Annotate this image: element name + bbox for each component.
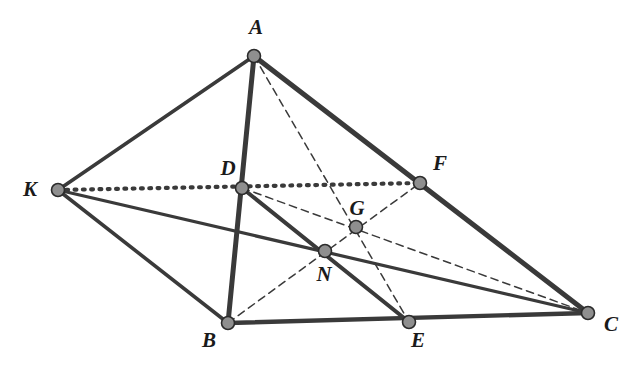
vertex-node-f: [414, 177, 427, 190]
vertex-node-b: [222, 317, 235, 330]
vertex-label-b: B: [201, 328, 216, 352]
vertex-node-c: [582, 307, 595, 320]
vertex-node-a: [248, 50, 261, 63]
vertex-label-f: F: [432, 151, 447, 175]
vertex-label-n: N: [315, 262, 332, 286]
vertex-label-e: E: [410, 328, 425, 352]
vertex-label-c: C: [604, 312, 619, 336]
vertex-label-a: A: [247, 15, 263, 39]
geometry-figure: AKDFGNBEC: [0, 0, 636, 377]
vertex-node-e: [403, 316, 416, 329]
vertex-label-g: G: [349, 196, 364, 220]
label-layer: AKDFGNBEC: [22, 15, 619, 352]
vertex-node-k: [52, 184, 65, 197]
vertex-node-g: [350, 221, 363, 234]
edge-d-c: [242, 188, 588, 313]
vertex-label-d: D: [219, 156, 235, 180]
vertex-node-d: [236, 182, 249, 195]
geometry-canvas: AKDFGNBEC: [0, 0, 636, 377]
vertex-label-k: K: [22, 177, 39, 201]
vertex-node-n: [319, 245, 332, 258]
